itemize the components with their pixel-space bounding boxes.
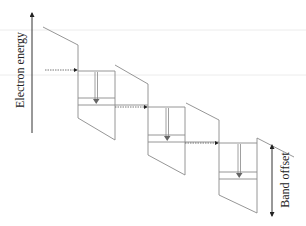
transition-arrowhead-2-icon — [164, 136, 171, 141]
band-diagram: Electron energy Band offse — [0, 0, 306, 226]
stage-1 — [43, 27, 148, 140]
energy-axis: Electron energy — [13, 13, 32, 133]
transition-arrowhead-1-icon — [93, 99, 100, 104]
transition-arrowhead-3-icon — [236, 173, 243, 178]
stage-2 — [115, 65, 219, 175]
energy-axis-label: Electron energy — [13, 32, 27, 108]
band-offset-label: Band offset — [278, 152, 292, 208]
barrier-3 — [186, 103, 257, 213]
barrier-1 — [43, 27, 115, 140]
band-offset-indicator: Band offset — [272, 148, 292, 216]
barrier-2 — [115, 65, 185, 175]
